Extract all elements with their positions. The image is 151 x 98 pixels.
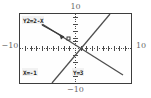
cursor-arrow — [42, 25, 64, 40]
cursor-point-marker — [67, 37, 70, 40]
axis-range-label-right: 10 — [132, 42, 150, 50]
cursor-x-readout: X=-1 — [22, 68, 38, 76]
axis-range-label-left: −10 — [1, 42, 19, 50]
plot-area[interactable]: Y2=2-X X=-1 Y=3 — [19, 13, 132, 84]
axis-range-label-bottom: −10 — [0, 86, 151, 94]
cursor-y-readout: Y=3 — [72, 68, 84, 76]
graph-figure: 10 −10 10 −10 — [0, 0, 151, 98]
function-label: Y2=2-X — [22, 16, 44, 24]
axis-range-label-top: 10 — [0, 3, 151, 11]
